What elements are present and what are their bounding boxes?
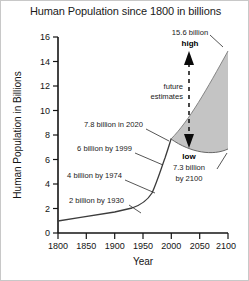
y-axis-label: Human Population in Billions	[12, 71, 23, 198]
chart-plot-area: 0 2 4 6 8 10 12 14 16 1800 1850 1900 195…	[1, 1, 249, 281]
x-tick-1850: 1850	[76, 241, 96, 251]
annotation-high-value: 15.6 billion	[172, 28, 208, 37]
x-tick-1950: 1950	[133, 241, 153, 251]
annotation-2020: 7.8 billion in 2020	[84, 120, 143, 129]
annotation-future-line2: estimates	[151, 92, 184, 101]
x-tick-2050: 2050	[190, 241, 210, 251]
leader-low	[217, 153, 227, 169]
leader-1974	[125, 180, 155, 193]
y-tick-6: 6	[45, 155, 50, 165]
y-tick-12: 12	[40, 81, 50, 91]
x-axis-ticks	[58, 233, 228, 239]
annotation-1930: 2 billion by 1930	[69, 196, 124, 205]
annotation-low-year: by 2100	[175, 174, 202, 183]
y-tick-2: 2	[45, 204, 50, 214]
annotation-low-word: low	[182, 152, 196, 161]
y-tick-4: 4	[45, 179, 50, 189]
x-tick-1900: 1900	[105, 241, 125, 251]
y-tick-16: 16	[40, 32, 50, 42]
x-tick-2000: 2000	[161, 241, 181, 251]
y-axis-tick-labels: 0 2 4 6 8 10 12 14 16	[40, 32, 50, 238]
annotation-1974: 4 billion by 1974	[67, 171, 122, 180]
x-tick-2100: 2100	[216, 241, 236, 251]
leader-2020	[146, 129, 169, 141]
population-chart-figure: Human Population since 1800 in billions …	[0, 0, 249, 281]
y-tick-10: 10	[40, 106, 50, 116]
annotation-high-word: high	[182, 39, 199, 48]
arrow-up-icon	[184, 51, 194, 65]
y-tick-8: 8	[45, 130, 50, 140]
leader-1999	[135, 153, 163, 165]
annotation-future-line1: future	[164, 82, 183, 91]
x-tick-1800: 1800	[48, 241, 68, 251]
y-tick-0: 0	[45, 228, 50, 238]
x-axis-tick-labels: 1800 1850 1900 1950 2000 2050 2100	[48, 241, 236, 251]
annotation-low-value: 7.3 billion	[173, 163, 205, 172]
y-tick-14: 14	[40, 57, 50, 67]
leader-high	[210, 35, 223, 47]
annotation-1999: 6 billion by 1999	[77, 144, 132, 153]
x-axis-label: Year	[133, 256, 154, 267]
